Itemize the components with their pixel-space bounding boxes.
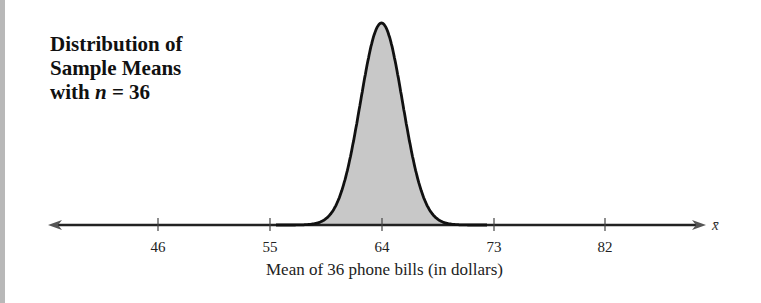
chart-figure: Distribution of Sample Means with n = 36… xyxy=(0,0,761,303)
axis-symbol: x̄ xyxy=(711,217,719,233)
x-axis-label: Mean of 36 phone bills (in dollars) xyxy=(0,260,761,280)
tick-label-82: 82 xyxy=(598,239,613,255)
distribution-area xyxy=(276,23,487,225)
tick-label-55: 55 xyxy=(263,239,278,255)
tick-label-64: 64 xyxy=(375,239,391,255)
chart-plot: 46 55 64 73 82 x̄ xyxy=(0,0,761,303)
tick-label-46: 46 xyxy=(151,239,167,255)
tick-label-73: 73 xyxy=(487,239,502,255)
